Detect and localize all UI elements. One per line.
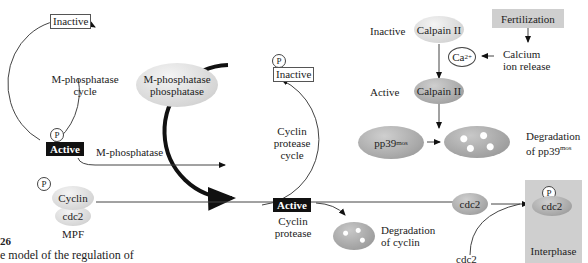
calcium-ion-icon: Ca2+ — [448, 47, 476, 67]
cyclin-protease-cycle-label: Cyclin protease cycle — [262, 125, 322, 161]
pp39-mos-protein: pp39mos — [358, 126, 424, 159]
interphase-label: Interphase — [525, 245, 582, 257]
figure-caption: e model of the regulation of — [0, 249, 134, 261]
cyclin-subunit: Cyclin — [52, 186, 94, 210]
calpain-inactive-enzyme: Calpain II — [414, 16, 464, 43]
degraded-pp39-icon — [444, 126, 510, 158]
m-phosphatase-phosphatase-enzyme: M-phosphatasephosphatase — [136, 63, 218, 107]
fertilization-box: Fertilization — [492, 9, 564, 28]
m-phosphatase-cycle-label: M-phosphatase cycle — [40, 73, 130, 97]
free-cdc2: cdc2 — [452, 193, 488, 215]
mpf-label: MPF — [52, 228, 94, 240]
phospho-marker-icon: P — [272, 54, 286, 68]
calpain-active-state: Active — [370, 86, 399, 98]
lower-cdc2-label: cdc2 — [456, 253, 477, 263]
calpain-inactive-state: Inactive — [370, 25, 405, 37]
calcium-release-label: Calcium ion release — [503, 48, 550, 72]
m-phosphatase-active-label: M-phosphatase — [96, 146, 163, 158]
cyclin-protease-inactive-box: Inactive — [273, 67, 314, 82]
pp39-degradation-label: Degradation of pp39mos — [526, 130, 580, 157]
cyclin-degradation-label: Degradation of cyclin — [381, 224, 435, 248]
cyclin-protease-active-box: Active — [273, 198, 311, 212]
figure-number: 26 — [0, 235, 11, 247]
m-phosphatase-inactive-box: Inactive — [50, 14, 91, 29]
cyclin-protease-active-label: Cyclin protease — [268, 215, 318, 239]
phospho-marker-icon: P — [37, 177, 51, 191]
m-phosphatase-active-box: Active — [46, 142, 84, 156]
interphase-cdc2: cdc2 — [532, 196, 572, 216]
calpain-active-enzyme: Calpain II — [414, 78, 464, 104]
degraded-cyclin-icon — [333, 222, 375, 250]
phospho-marker-icon: P — [50, 128, 64, 142]
